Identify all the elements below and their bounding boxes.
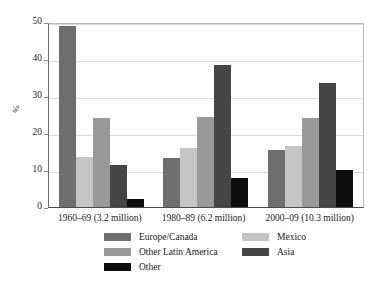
bar [163,158,180,207]
bar [76,157,93,207]
figure: % 01020304050 1960–69 (3.2 million)1980–… [0,0,384,285]
y-axis-tick-labels: 01020304050 [20,22,42,214]
legend-swatch [242,233,269,241]
bar [214,65,231,207]
y-axis-tick-label: 20 [20,127,42,137]
bar [110,165,127,207]
bar-group [268,24,353,207]
legend-label: Other [139,262,161,272]
legend-label: Asia [277,247,294,257]
x-axis-category-label: 1980–89 (6.2 million) [162,211,246,227]
bar-group [163,24,248,207]
x-axis-category-label: 2000–09 (10.3 million) [266,211,354,227]
bar [319,83,336,207]
x-axis-category-labels: 1960–69 (3.2 million)1980–89 (6.2 millio… [48,211,364,227]
y-axis-tick-label: 30 [20,90,42,100]
bar [302,118,319,207]
y-axis-tick-mark [44,208,48,209]
legend: Europe/CanadaMexicoOther Latin AmericaAs… [104,231,364,277]
x-axis-category-label: 1960–69 (3.2 million) [58,211,142,227]
y-axis-tick-label: 0 [20,201,42,211]
bar [336,170,353,207]
legend-item[interactable]: Other Latin America [104,246,218,258]
y-axis-tick-label: 50 [20,16,42,26]
bar [285,146,302,207]
plot-area [48,23,364,208]
bar [180,148,197,207]
legend-item[interactable]: Other [104,261,161,273]
legend-label: Other Latin America [139,247,218,257]
bar-groups [49,24,363,207]
legend-item[interactable]: Mexico [242,231,306,243]
y-axis-tick-label: 10 [20,164,42,174]
legend-label: Europe/Canada [139,232,198,242]
legend-item[interactable]: Europe/Canada [104,231,198,243]
legend-swatch [242,248,269,256]
legend-label: Mexico [277,232,306,242]
y-axis-tick-label: 40 [20,53,42,63]
legend-swatch [104,248,131,256]
bar [127,199,144,207]
legend-item[interactable]: Asia [242,246,294,258]
legend-swatch [104,263,131,271]
bar [231,178,248,207]
bar-group [59,24,144,207]
bar [93,118,110,207]
bar [197,117,214,207]
bar [59,26,76,207]
bar [268,150,285,207]
legend-swatch [104,233,131,241]
